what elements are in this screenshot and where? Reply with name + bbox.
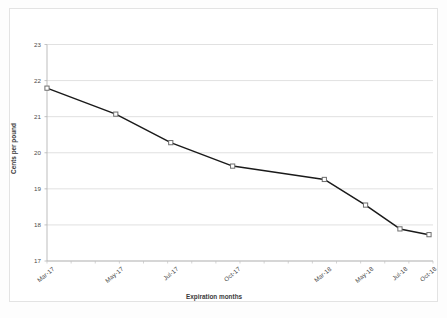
gridlines xyxy=(47,45,433,262)
data-point-marker xyxy=(45,86,49,90)
data-point-marker xyxy=(363,203,367,207)
y-axis-tick-label: 20 xyxy=(19,149,41,156)
data-point-marker xyxy=(114,112,118,116)
data-point-marker xyxy=(322,177,326,181)
data-point-marker xyxy=(231,164,235,168)
y-axis-tick-label: 19 xyxy=(19,185,41,192)
series-line xyxy=(47,88,429,235)
y-axis-tick-label: 21 xyxy=(19,113,41,120)
y-axis-title: Cents per pound xyxy=(10,119,17,179)
x-axis-minor-ticks xyxy=(45,45,434,264)
y-axis-tick-label: 22 xyxy=(19,77,41,84)
y-axis-tick-label: 18 xyxy=(19,221,41,228)
data-point-marker xyxy=(169,141,173,145)
x-axis-title: Expiration months xyxy=(186,293,242,300)
line-chart-plot xyxy=(0,0,447,318)
data-point-marker xyxy=(427,233,431,237)
y-axis-tick-label: 23 xyxy=(19,41,41,48)
data-point-marker xyxy=(398,227,402,231)
y-axis-tick-label: 17 xyxy=(19,257,41,264)
chart-container: 17181920212223 Mar-17May-17Jul-17Oct-17M… xyxy=(0,0,447,318)
